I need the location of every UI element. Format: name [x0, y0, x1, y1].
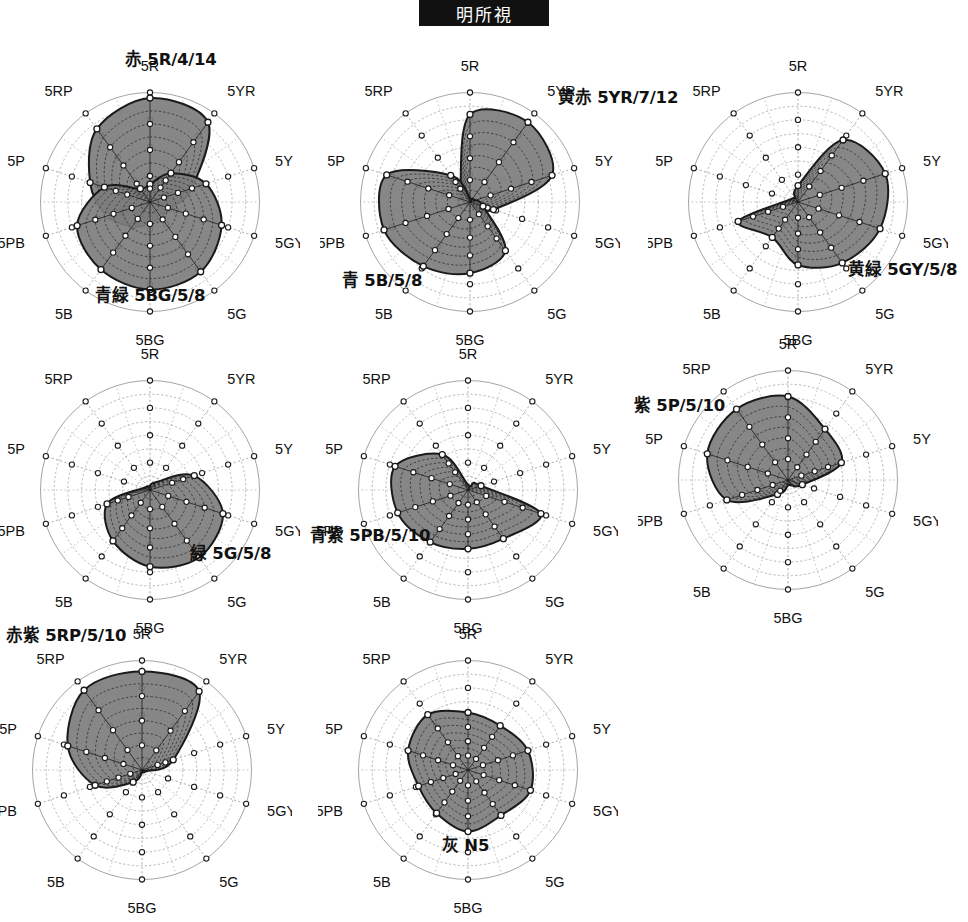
- photopic-vision-radar-figure: 明所視 5R5YR5Y5GY5G5BG5B5PB5P5RP赤 5R/4/14青緑…: [0, 0, 968, 922]
- series-caption-6-1: 紫 5P/5/10: [634, 392, 725, 416]
- axis-label-5b: 5B: [703, 306, 721, 322]
- radar-chart-panel-7: 5R5YR5Y5GY5G5BG5B5PB5P5RP赤紫 5RP/5/10: [0, 620, 292, 920]
- series-caption-1-1: 赤 5R/4/14: [125, 46, 217, 70]
- axis-label-5g: 5G: [545, 874, 564, 890]
- axis-label-5gy: 5GY: [275, 523, 300, 539]
- axis-label-5g: 5G: [875, 306, 894, 322]
- radar-chart-panel-8: 5R5YR5Y5GY5G5BG5B5PB5P5RP灰 N5: [318, 620, 618, 920]
- axis-label-5rp: 5RP: [44, 83, 72, 99]
- figure-title-text: 明所視: [456, 1, 513, 26]
- axis-label-5p: 5P: [7, 153, 25, 169]
- axis-label-5bg: 5BG: [127, 900, 156, 916]
- axis-label-5y: 5Y: [923, 153, 941, 169]
- radar-series-1: [65, 668, 202, 788]
- axis-label-5yr: 5YR: [227, 371, 255, 387]
- radar-chart-panel-4: 5R5YR5Y5GY5G5BG5B5PB5P5RP緑 5G/5/8: [0, 340, 300, 640]
- axis-label-5yr: 5YR: [545, 371, 573, 387]
- axis-label-5r: 5R: [461, 58, 480, 74]
- series-caption-1-2: 青緑 5BG/5/8: [95, 282, 205, 306]
- axis-label-5pb: 5PB: [638, 513, 663, 529]
- axis-label-5y: 5Y: [275, 441, 293, 457]
- series-caption-5-1: 青紫 5PB/5/10: [310, 522, 430, 546]
- axis-label-5rp: 5RP: [692, 83, 720, 99]
- axis-label-5rp: 5RP: [364, 83, 392, 99]
- axis-label-5p: 5P: [0, 721, 17, 737]
- axis-label-5y: 5Y: [593, 441, 611, 457]
- series-caption-3-1: 黄緑 5GY/5/8: [848, 256, 957, 280]
- axis-label-5gy: 5GY: [923, 235, 948, 251]
- axis-label-5yr: 5YR: [219, 651, 247, 667]
- series-caption-2-2: 青 5B/5/8: [342, 267, 422, 291]
- axis-label-5rp: 5RP: [682, 361, 710, 377]
- radar-series-1: [735, 137, 888, 268]
- axis-label-5bg: 5BG: [773, 610, 802, 626]
- axis-label-5b: 5B: [55, 594, 73, 610]
- axis-label-5r: 5R: [789, 58, 808, 74]
- radar-series-1: [704, 394, 844, 503]
- axis-label-5pb: 5PB: [0, 803, 17, 819]
- axis-label-5yr: 5YR: [875, 83, 903, 99]
- axis-label-5y: 5Y: [593, 721, 611, 737]
- axis-label-5b: 5B: [693, 584, 711, 600]
- axis-label-5y: 5Y: [275, 153, 293, 169]
- radar-chart-panel-6: 5R5YR5Y5GY5G5BG5B5PB5P5RP紫 5P/5/10: [638, 330, 938, 630]
- radar-chart-panel-5: 5R5YR5Y5GY5G5BG5B5PB5P5RP青紫 5PB/5/10: [318, 340, 618, 640]
- radar-series-1: [405, 710, 533, 835]
- axis-label-5gy: 5GY: [593, 523, 618, 539]
- axis-label-5g: 5G: [545, 594, 564, 610]
- axis-label-5pb: 5PB: [318, 803, 343, 819]
- series-caption-4-1: 緑 5G/5/8: [190, 540, 271, 564]
- axis-label-5rp: 5RP: [44, 371, 72, 387]
- axis-label-5p: 5P: [325, 441, 343, 457]
- axis-label-5pb: 5PB: [0, 523, 25, 539]
- axis-label-5g: 5G: [547, 306, 566, 322]
- axis-label-5gy: 5GY: [267, 803, 292, 819]
- axis-label-5rp: 5RP: [362, 371, 390, 387]
- axis-label-5y: 5Y: [267, 721, 285, 737]
- axis-label-5pb: 5PB: [320, 235, 345, 251]
- series-caption-8-1: 灰 N5: [442, 832, 489, 856]
- axis-label-5p: 5P: [7, 441, 25, 457]
- axis-label-5gy: 5GY: [913, 513, 938, 529]
- axis-label-5yr: 5YR: [865, 361, 893, 377]
- axis-label-5pb: 5PB: [0, 235, 25, 251]
- axis-label-5g: 5G: [227, 594, 246, 610]
- axis-label-5r: 5R: [459, 626, 478, 642]
- radar-chart-panel-3: 5R5YR5Y5GY5G5BG5B5PB5P5RP黄緑 5GY/5/8: [648, 52, 948, 352]
- axis-label-5yr: 5YR: [227, 83, 255, 99]
- axis-label-5y: 5Y: [913, 431, 931, 447]
- axis-label-5r: 5R: [133, 626, 152, 642]
- axis-label-5b: 5B: [47, 874, 65, 890]
- axis-label-5p: 5P: [645, 431, 663, 447]
- axis-label-5gy: 5GY: [593, 803, 618, 819]
- axis-label-5rp: 5RP: [362, 651, 390, 667]
- axis-label-5g: 5G: [227, 306, 246, 322]
- axis-label-5b: 5B: [55, 306, 73, 322]
- axis-label-5p: 5P: [327, 153, 345, 169]
- axis-label-5b: 5B: [373, 874, 391, 890]
- series-caption-7-1: 赤紫 5RP/5/10: [6, 622, 126, 646]
- axis-label-5rp: 5RP: [36, 651, 64, 667]
- axis-label-5r: 5R: [459, 346, 478, 362]
- axis-label-5r: 5R: [779, 336, 798, 352]
- radar-chart-panel-2: 5R5YR5Y5GY5G5BG5B5PB5P5RP黄赤 5YR/7/12青 5B…: [320, 52, 620, 352]
- axis-label-5pb: 5PB: [648, 235, 673, 251]
- radar-series-1: [457, 109, 555, 212]
- axis-label-5b: 5B: [375, 306, 393, 322]
- axis-label-5yr: 5YR: [545, 651, 573, 667]
- axis-label-5g: 5G: [219, 874, 238, 890]
- axis-label-5y: 5Y: [595, 153, 613, 169]
- axis-label-5bg: 5BG: [453, 900, 482, 916]
- axis-label-5r: 5R: [141, 346, 160, 362]
- axis-label-5gy: 5GY: [595, 235, 620, 251]
- axis-label-5b: 5B: [373, 594, 391, 610]
- axis-label-5gy: 5GY: [275, 235, 300, 251]
- axis-label-5p: 5P: [325, 721, 343, 737]
- axis-label-5g: 5G: [865, 584, 884, 600]
- radar-chart-panel-1: 5R5YR5Y5GY5G5BG5B5PB5P5RP赤 5R/4/14青緑 5BG…: [0, 52, 300, 352]
- figure-title-banner: 明所視: [419, 0, 549, 26]
- axis-label-5p: 5P: [655, 153, 673, 169]
